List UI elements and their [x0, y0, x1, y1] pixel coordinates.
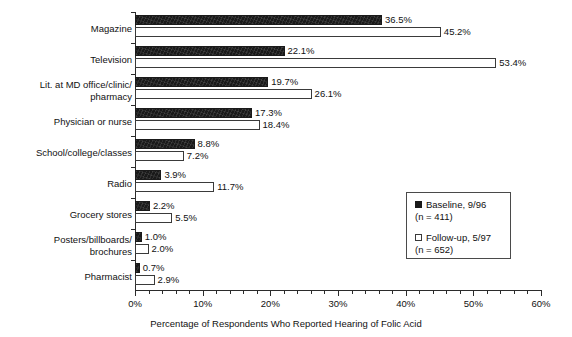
bar-value-label: 2.9% — [158, 274, 180, 285]
bar-chart-figure: MagazineTelevisionLit. at MD office/clin… — [0, 0, 572, 337]
x-axis-title: Percentage of Respondents Who Reported H… — [0, 318, 572, 329]
bar-baseline — [135, 232, 142, 242]
bar-baseline — [135, 77, 268, 87]
x-axis-minor-tick — [446, 291, 447, 294]
bar-group: 22.1%53.4% — [135, 45, 541, 76]
bar-value-label: 0.7% — [143, 262, 165, 273]
bar-value-label: 1.0% — [145, 231, 167, 242]
x-axis-major-tick — [203, 291, 204, 296]
legend-swatch-baseline-icon — [415, 201, 422, 208]
x-axis-minor-tick — [460, 291, 461, 294]
legend-entry-baseline: Baseline, 9/96 — [415, 199, 510, 211]
bar-followup — [135, 275, 155, 285]
category-label: Television — [0, 54, 132, 66]
bar-group: 8.8%7.2% — [135, 138, 541, 169]
category-label: Radio — [0, 178, 132, 190]
x-axis-major-tick — [135, 291, 136, 296]
x-axis-major-tick — [338, 291, 339, 296]
x-axis-tick-label: 40% — [396, 298, 415, 309]
bar-value-label: 26.1% — [315, 88, 342, 99]
legend-swatch-followup-icon — [415, 234, 422, 241]
bar-followup — [135, 244, 149, 254]
x-axis-minor-tick — [311, 291, 312, 294]
bar-value-label: 53.4% — [499, 57, 526, 68]
bar-value-label: 11.7% — [217, 181, 243, 192]
bar-baseline — [135, 46, 285, 56]
bar-value-label: 5.5% — [175, 212, 197, 223]
y-axis-tick — [131, 74, 135, 75]
y-axis-tick — [131, 229, 135, 230]
x-axis-tick-label: 50% — [464, 298, 483, 309]
x-axis-minor-tick — [230, 291, 231, 294]
bar-value-label: 8.8% — [198, 138, 220, 149]
x-axis-tick-label: 60% — [531, 298, 550, 309]
x-axis-minor-tick — [379, 291, 380, 294]
legend-label-baseline: Baseline, 9/96 — [426, 199, 486, 210]
x-axis-minor-tick — [162, 291, 163, 294]
bar-followup — [135, 182, 214, 192]
category-label: Grocery stores — [0, 209, 132, 221]
x-axis-minor-tick — [527, 291, 528, 294]
y-axis-tick — [131, 198, 135, 199]
x-axis-minor-tick — [365, 291, 366, 294]
x-axis-minor-tick — [487, 291, 488, 294]
x-axis-minor-tick — [433, 291, 434, 294]
bar-followup — [135, 213, 172, 223]
category-label: Posters/billboards/ brochures — [0, 234, 132, 257]
x-axis-minor-tick — [392, 291, 393, 294]
x-axis-minor-tick — [324, 291, 325, 294]
bar-baseline — [135, 201, 150, 211]
bar-followup — [135, 120, 260, 130]
category-axis-labels: MagazineTelevisionLit. at MD office/clin… — [0, 12, 132, 290]
x-axis-major-tick — [473, 291, 474, 296]
x-axis-major-tick — [270, 291, 271, 296]
bar-followup — [135, 89, 312, 99]
bar-baseline — [135, 15, 382, 25]
x-axis-minor-tick — [176, 291, 177, 294]
x-axis-minor-tick — [297, 291, 298, 294]
bar-value-label: 2.0% — [152, 243, 174, 254]
bar-followup — [135, 27, 441, 37]
bar-baseline — [135, 263, 140, 273]
bar-group: 19.7%26.1% — [135, 76, 541, 107]
bar-value-label: 18.4% — [263, 119, 290, 130]
x-axis-tick-label: 10% — [193, 298, 212, 309]
x-axis-tick-label: 30% — [328, 298, 347, 309]
x-axis-major-tick — [541, 291, 542, 296]
x-axis-minor-tick — [352, 291, 353, 294]
bar-value-label: 22.1% — [288, 45, 315, 56]
x-axis-minor-tick — [243, 291, 244, 294]
y-axis-tick — [131, 12, 135, 13]
bar-group: 36.5%45.2% — [135, 14, 541, 45]
x-axis-minor-tick — [149, 291, 150, 294]
bar-baseline — [135, 108, 252, 118]
x-axis-minor-tick — [257, 291, 258, 294]
bar-value-label: 17.3% — [255, 107, 282, 118]
bar-baseline — [135, 170, 161, 180]
bar-group: 17.3%18.4% — [135, 107, 541, 138]
legend-sub-baseline: (n = 411) — [415, 211, 510, 223]
x-axis-minor-tick — [189, 291, 190, 294]
bar-value-label: 7.2% — [187, 150, 209, 161]
x-axis-tick-label: 0% — [128, 298, 142, 309]
legend-label-followup: Follow-up, 5/97 — [426, 232, 491, 243]
legend-sub-followup: (n = 652) — [415, 244, 510, 256]
category-label: Lit. at MD office/clinic/ pharmacy — [0, 79, 132, 102]
category-label: Magazine — [0, 23, 132, 35]
x-axis-major-tick — [406, 291, 407, 296]
x-axis-minor-tick — [284, 291, 285, 294]
bar-followup — [135, 58, 496, 68]
bar-value-label: 3.9% — [164, 169, 186, 180]
y-axis-tick — [131, 43, 135, 44]
bar-value-label: 36.5% — [385, 14, 412, 25]
category-label: Physician or nurse — [0, 116, 132, 128]
y-axis-tick — [131, 105, 135, 106]
legend-entry-followup: Follow-up, 5/97 — [415, 232, 510, 244]
bar-followup — [135, 151, 184, 161]
x-axis-minor-tick — [514, 291, 515, 294]
bar-value-label: 45.2% — [444, 26, 471, 37]
x-axis-tick-label: 20% — [261, 298, 280, 309]
x-axis-minor-tick — [419, 291, 420, 294]
bar-group: 0.7%2.9% — [135, 262, 541, 293]
category-label: School/college/classes — [0, 147, 132, 159]
